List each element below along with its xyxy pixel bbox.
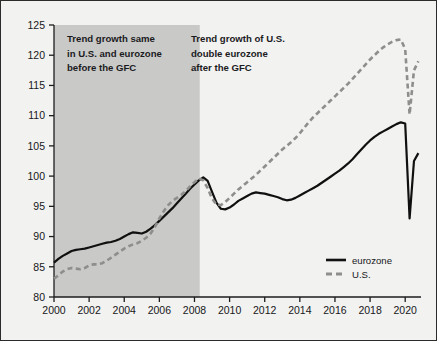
x-tick-label: 2018 [358,304,382,316]
y-tick-label: 80 [33,291,45,303]
y-tick-label: 105 [27,140,45,152]
post-gfc-annotation-line: double eurozone [191,48,268,59]
y-tick-label: 85 [33,261,45,273]
y-tick-label: 100 [27,170,45,182]
y-tick-label: 110 [28,109,45,121]
legend-label-us: U.S. [352,269,371,280]
pre-gfc-annotation-line: Trend growth same [67,33,155,44]
y-axis-ticks: 80859095100105110115120125 [27,19,54,303]
x-tick-label: 2010 [218,304,242,316]
y-tick-label: 115 [28,79,45,91]
y-tick-label: 90 [33,230,45,242]
x-axis-ticks: 2000200220042006200820102012201420162018… [42,297,417,316]
x-tick-label: 2016 [323,304,347,316]
x-tick-label: 2006 [148,304,172,316]
x-tick-label: 2004 [113,304,137,316]
pre-gfc-annotation-line: before the GFC [67,62,136,73]
chart-figure: 80859095100105110115120125 2000200220042… [0,0,437,341]
x-tick-label: 2002 [77,304,101,316]
x-tick-label: 2008 [183,304,207,316]
chart-legend: eurozoneU.S. [326,255,392,280]
post-gfc-annotation-line: after the GFC [191,62,252,73]
pre-gfc-annotation-line: in U.S. and eurozone [67,48,162,59]
y-tick-label: 125 [27,19,45,31]
y-tick-label: 95 [33,200,45,212]
x-tick-label: 2000 [42,304,66,316]
x-tick-label: 2014 [288,304,312,316]
x-tick-label: 2012 [253,304,277,316]
post-gfc-annotation-line: Trend growth of U.S. [191,33,285,44]
legend-label-eurozone: eurozone [352,255,392,266]
y-tick-label: 120 [27,49,45,61]
x-tick-label: 2020 [394,304,418,316]
line-chart: 80859095100105110115120125 2000200220042… [1,1,437,341]
